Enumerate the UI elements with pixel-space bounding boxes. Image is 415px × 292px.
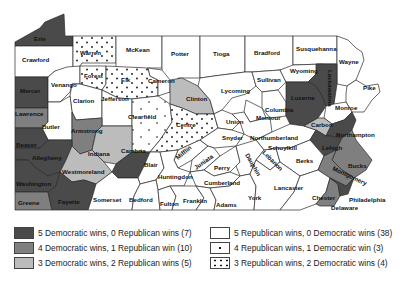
- label-jefferson: Jefferson: [101, 95, 129, 102]
- label-clarion: Clarion: [73, 97, 95, 104]
- label-potter: Potter: [171, 50, 189, 57]
- label-blair: Blair: [144, 161, 158, 168]
- label-armstrong: Armstrong: [71, 127, 103, 134]
- county-mckean: [116, 36, 162, 71]
- label-huntingdon: Huntingdon: [158, 173, 193, 180]
- legend-swatch-medium-gray: [14, 242, 34, 254]
- map-legend: 5 Democratic wins, 0 Republican wins (7)…: [14, 226, 414, 288]
- label-monroe: Monroe: [335, 104, 358, 111]
- label-tioga: Tioga: [213, 50, 230, 57]
- label-berks: Berks: [296, 157, 314, 164]
- label-allegheny: Allegheny: [32, 154, 62, 161]
- legend-swatch-light-gray: [14, 257, 34, 269]
- label-erie: Erie: [34, 35, 46, 42]
- label-warren: Warren: [80, 49, 101, 56]
- legend-swatch-sparse-dots: [210, 242, 230, 254]
- label-butler: Butler: [42, 123, 60, 130]
- label-clinton: Clinton: [186, 95, 208, 102]
- label-centre: Centre: [176, 121, 196, 128]
- label-crawford: Crawford: [22, 56, 49, 63]
- label-bedford: Bedford: [129, 196, 153, 203]
- legend-swatch-dark-gray: [14, 227, 34, 239]
- label-venango: Venango: [51, 81, 77, 88]
- label-cumberland: Cumberland: [204, 179, 240, 186]
- label-cameron: Cameron: [148, 77, 175, 84]
- label-montour: Montour: [256, 114, 281, 121]
- label-chester: Chester: [312, 194, 336, 201]
- label-northampton: Northampton: [336, 131, 375, 138]
- legend-label: 4 Democratic wins, 1 Republican win (10): [38, 243, 192, 253]
- label-franklin: Franklin: [183, 197, 207, 204]
- legend-item-r3: 3 Republican wins, 2 Democratic wins (4): [210, 256, 388, 270]
- label-perry: Perry: [214, 164, 230, 171]
- legend-item-d3: 3 Democratic wins, 2 Republican wins (5): [14, 256, 192, 270]
- label-mckean: McKean: [126, 46, 150, 53]
- label-philadelphia: Philadelphia: [349, 196, 386, 203]
- label-beaver: Beaver: [16, 141, 37, 148]
- legend-label: 4 Republican wins, 1 Democratic win (3): [234, 243, 383, 253]
- label-forest: Forest: [84, 72, 103, 79]
- label-lycoming: Lycoming: [221, 87, 250, 94]
- label-lancaster: Lancaster: [274, 184, 304, 191]
- legend-swatch-dense-dots: [210, 257, 230, 269]
- label-westmoreland: Westmoreland: [62, 168, 105, 175]
- pennsylvania-county-map: Erie Crawford Warren McKean Potter Tioga…: [0, 0, 415, 220]
- legend-label: 5 Democratic wins, 0 Republican wins (7): [38, 228, 192, 238]
- label-lawrence: Lawrence: [15, 110, 44, 117]
- legend-item-r4: 4 Republican wins, 1 Democratic win (3): [210, 241, 383, 255]
- label-fulton: Fulton: [160, 200, 179, 207]
- label-luzerne: Luzerne: [291, 94, 315, 101]
- label-lackawanna: Lackawanna: [327, 70, 334, 107]
- label-bradford: Bradford: [254, 49, 280, 56]
- legend-swatch-white: [210, 227, 230, 239]
- legend-item-d5: 5 Democratic wins, 0 Republican wins (7): [14, 226, 192, 240]
- label-northumberland: Northumberland: [250, 134, 298, 141]
- label-elk: Elk: [121, 76, 131, 83]
- legend-label: 5 Republican wins, 0 Democratic wins (38…: [234, 228, 392, 238]
- label-pike: Pike: [363, 84, 376, 91]
- legend-label: 3 Democratic wins, 2 Republican wins (5): [38, 258, 192, 268]
- label-york: York: [248, 194, 262, 201]
- label-columbia: Columbia: [265, 106, 294, 113]
- county-tioga: [200, 36, 245, 78]
- label-adams: Adams: [216, 201, 237, 208]
- label-union: Union: [226, 118, 244, 125]
- label-snyder: Snyder: [222, 134, 244, 141]
- label-indiana: Indiana: [88, 150, 110, 157]
- label-mercer: Mercer: [20, 87, 41, 94]
- label-wayne: Wayne: [339, 58, 359, 65]
- label-delaware: Delaware: [331, 204, 359, 211]
- legend-item-d4: 4 Democratic wins, 1 Republican win (10): [14, 241, 192, 255]
- label-wyoming: Wyoming: [290, 67, 318, 74]
- legend-item-r5: 5 Republican wins, 0 Democratic wins (38…: [210, 226, 392, 240]
- label-washington: Washington: [16, 180, 51, 187]
- label-susquehanna: Susquehanna: [296, 45, 337, 52]
- label-bucks: Bucks: [348, 162, 367, 169]
- label-clearfield: Clearfield: [128, 113, 156, 120]
- label-fayette: Fayette: [58, 198, 80, 205]
- label-lehigh: Lehigh: [322, 144, 342, 151]
- legend-label: 3 Republican wins, 2 Democratic wins (4): [234, 258, 388, 268]
- label-carbon: Carbon: [311, 121, 333, 128]
- label-cambria: Cambria: [121, 147, 146, 154]
- label-greene: Greene: [18, 199, 40, 206]
- label-sullivan: Sullivan: [257, 76, 281, 83]
- label-somerset: Somerset: [93, 196, 121, 203]
- label-schuylkill: Schuylkill: [268, 144, 297, 151]
